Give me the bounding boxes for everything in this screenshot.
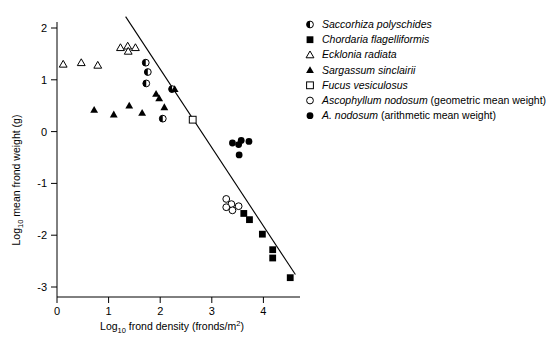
legend-label: Sargassum sinclairii: [322, 64, 416, 76]
legend-species-name: Chordaria flagelliformis: [322, 33, 430, 45]
filled-circle-icon: [246, 138, 253, 145]
y-axis-title: Log10 mean frond weight (g): [10, 115, 25, 246]
x-tick-label: 3: [209, 305, 215, 317]
legend-item[interactable]: Fucus vesiculosus: [307, 79, 409, 91]
marker-open-triangle: [59, 60, 67, 67]
marker-open-circle: [229, 207, 236, 214]
x-tick-label: 1: [106, 305, 112, 317]
legend-item[interactable]: Sargassum sinclairii: [306, 64, 416, 76]
marker-filled-circle: [238, 137, 245, 144]
x-axis-title-suffix: ): [240, 320, 244, 332]
open-triangle-icon: [94, 61, 102, 68]
svg-text:Log10 mean frond weight (g): Log10 mean frond weight (g): [10, 115, 25, 246]
marker-filled-square: [246, 216, 253, 223]
open-square-icon: [307, 82, 314, 89]
marker-filled-triangle: [160, 103, 168, 110]
legend-species-name: Ecklonia radiata: [322, 48, 397, 60]
series-group: [229, 137, 252, 158]
marker-filled-triangle: [90, 106, 98, 113]
legend-species-name: Ascophyllum nodosum: [321, 94, 428, 106]
marker-open-triangle: [117, 44, 125, 51]
open-triangle-icon: [77, 59, 85, 66]
marker-open-triangle: [306, 51, 314, 58]
legend-item[interactable]: Saccorhiza polyschides: [307, 18, 433, 30]
marker-half-filled-circle: [143, 80, 150, 87]
marker-open-square: [189, 116, 196, 123]
marker-filled-circle: [236, 152, 243, 159]
legend-label: Saccorhiza polyschides: [322, 18, 432, 30]
marker-filled-triangle: [306, 66, 314, 73]
filled-triangle-icon: [160, 103, 168, 110]
legend-species-name: A. nodosum: [321, 109, 378, 121]
marker-open-circle: [223, 196, 230, 203]
series-group: [142, 59, 175, 122]
marker-filled-square: [240, 210, 247, 217]
y-tick-label: 1: [41, 74, 47, 86]
x-axis-title-sub: 10: [118, 326, 126, 335]
legend-label: Ascophyllum nodosum (geometric mean weig…: [321, 94, 546, 106]
x-axis-ticks: 01234: [54, 297, 267, 317]
marker-open-triangle: [132, 44, 140, 51]
y-axis-ticks: 210-1-2-3: [37, 22, 57, 293]
series-group: [59, 42, 139, 68]
y-axis-title-suffix: mean frond weight (g): [10, 115, 22, 220]
legend-item[interactable]: Chordaria flagelliformis: [307, 33, 431, 45]
filled-square-icon: [269, 255, 276, 262]
x-tick-label: 0: [54, 305, 60, 317]
y-tick-label: 2: [41, 22, 47, 34]
marker-filled-triangle: [110, 111, 118, 118]
marker-half-filled-circle: [307, 21, 314, 28]
marker-filled-square: [259, 231, 266, 238]
marker-open-triangle: [77, 59, 85, 66]
legend-item[interactable]: A. nodosum (arithmetic mean weight): [307, 109, 496, 121]
data-points-layer: [59, 42, 293, 281]
filled-triangle-icon: [306, 66, 314, 73]
filled-triangle-icon: [125, 102, 133, 109]
y-tick-label: 0: [41, 126, 47, 138]
y-axis-title-prefix: Log: [10, 228, 22, 246]
open-circle-icon: [307, 97, 314, 104]
x-axis-title-mid: frond density (fronds/m: [126, 320, 237, 332]
open-circle-icon: [235, 203, 242, 210]
filled-triangle-icon: [90, 106, 98, 113]
marker-open-triangle: [94, 61, 102, 68]
marker-open-square: [307, 82, 314, 89]
marker-filled-circle: [246, 138, 253, 145]
marker-half-filled-circle: [144, 69, 151, 76]
series-group: [240, 210, 293, 281]
legend-label: Ecklonia radiata: [322, 48, 397, 60]
marker-half-filled-circle: [159, 115, 166, 122]
open-triangle-icon: [306, 51, 314, 58]
legend-item[interactable]: Ascophyllum nodosum (geometric mean weig…: [307, 94, 546, 106]
marker-open-circle: [307, 97, 314, 104]
open-square-icon: [189, 116, 196, 123]
self-thinning-fit-line: [126, 17, 296, 275]
filled-square-icon: [240, 210, 247, 217]
series-group: [189, 116, 196, 123]
marker-filled-square: [269, 255, 276, 262]
filled-square-icon: [246, 216, 253, 223]
marker-filled-square: [269, 246, 276, 253]
legend-label: Chordaria flagelliformis: [322, 33, 430, 45]
open-circle-icon: [223, 196, 230, 203]
legend-species-name: Fucus vesiculosus: [322, 79, 409, 91]
open-triangle-icon: [132, 44, 140, 51]
filled-circle-icon: [236, 152, 243, 159]
open-triangle-icon: [117, 44, 125, 51]
filled-square-icon: [259, 231, 266, 238]
marker-filled-circle: [307, 112, 314, 119]
legend-note: (arithmetic mean weight): [378, 109, 496, 121]
legend-item[interactable]: Ecklonia radiata: [306, 48, 397, 60]
filled-square-icon: [307, 36, 314, 43]
marker-filled-circle: [229, 140, 236, 147]
filled-triangle-icon: [138, 109, 146, 116]
filled-circle-icon: [238, 137, 245, 144]
legend-note: (geometric mean weight): [428, 94, 546, 106]
filled-square-icon: [287, 274, 294, 281]
legend-species-name: Sargassum sinclairii: [322, 64, 416, 76]
filled-circle-icon: [229, 140, 236, 147]
x-axis-title: Log10 frond density (fronds/m2): [100, 319, 244, 335]
scatter-plot-figure: Log10 mean frond weight (g) Log10 frond …: [0, 0, 546, 346]
x-axis-title-prefix: Log: [100, 320, 118, 332]
y-tick-label: -3: [37, 281, 47, 293]
